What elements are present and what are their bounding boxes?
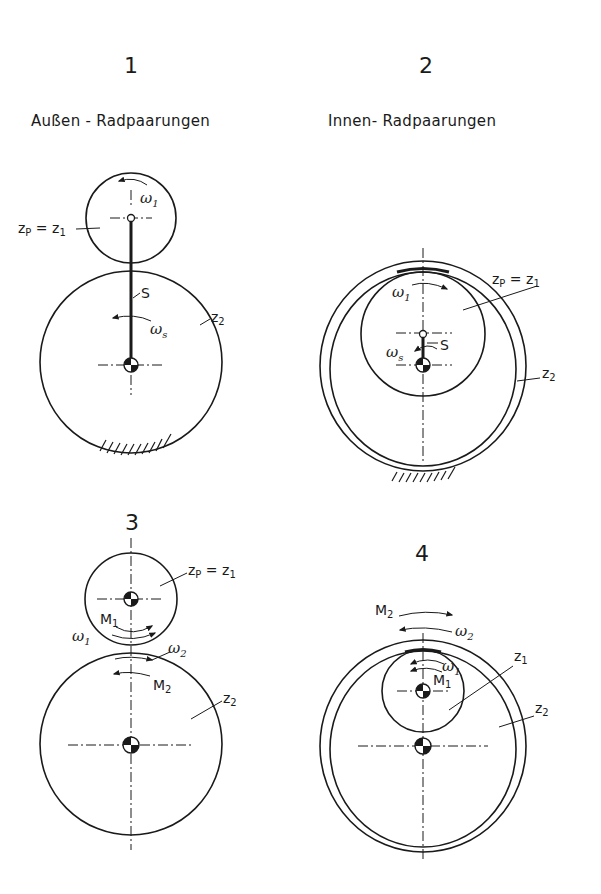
panel-2-internal-planetary: 2 Innen- Radpaarungen <box>320 53 556 482</box>
carrier-label-s: S <box>141 285 150 301</box>
omega2-rotation-arrow-icon <box>115 657 152 660</box>
planet-label: zP = z1 <box>18 220 66 238</box>
gear-pairing-diagram: 1 Außen - Radpaarungen <box>0 0 601 894</box>
panel-3-external-fixed-axes: 3 M1 ω1 ω2 M2 zP = z1 z2 <box>40 510 237 850</box>
omegas-rotation-arrow-icon <box>415 346 437 351</box>
omega2-label: ω2 <box>168 639 187 659</box>
leader-line <box>76 228 100 229</box>
omega1-rotation-arrow-icon <box>119 179 147 185</box>
panel-1-heading: Außen - Radpaarungen <box>31 112 210 130</box>
leader-line <box>517 378 540 381</box>
panel-4-number: 4 <box>415 541 429 566</box>
planet-pivot-icon <box>128 215 135 222</box>
omega1-rotation-arrow-icon <box>412 283 447 289</box>
ring-label: z2 <box>535 700 549 718</box>
planet-label: zP = z1 <box>188 562 236 580</box>
panel-2-number: 2 <box>419 53 433 78</box>
bearing-center-icon <box>124 592 138 606</box>
pinion-label: z1 <box>514 648 528 666</box>
fixed-ground-hatch <box>100 434 171 455</box>
m2-label: M2 <box>153 677 171 695</box>
leader-line <box>200 319 210 325</box>
gear-z2-label: z2 <box>223 690 237 708</box>
planet-label: zP = z1 <box>492 271 540 289</box>
sun-label: z2 <box>211 309 225 327</box>
panel-4-internal-fixed-axes: 4 M2 ω2 ω1 M1 z1 z <box>320 541 549 862</box>
omega2-label: ω2 <box>455 622 474 642</box>
planet-pivot-icon <box>420 331 427 338</box>
leader-line <box>499 716 534 727</box>
omega1-rotation-arrow-icon <box>112 633 155 639</box>
m2-label: M2 <box>375 602 393 620</box>
omega1-label: ω1 <box>140 189 159 209</box>
m2-torque-arrow-icon <box>399 612 452 616</box>
bearing-center-icon <box>416 684 430 698</box>
omega1-rotation-arrow-icon <box>411 660 444 664</box>
panel-2-heading: Innen- Radpaarungen <box>328 112 496 130</box>
m1-label: M1 <box>100 611 118 629</box>
ring-label: z2 <box>542 365 556 383</box>
panel-1-number: 1 <box>124 53 138 78</box>
bearing-center-icon <box>124 358 138 372</box>
omegas-label: ωs <box>386 343 403 363</box>
omegas-label: ωs <box>150 320 167 340</box>
m2-torque-arrow-icon <box>114 672 150 676</box>
m1-torque-arrow-icon <box>116 626 152 632</box>
leader-line <box>133 293 140 298</box>
panel-3-number: 3 <box>125 510 139 535</box>
bearing-center-icon <box>415 738 431 754</box>
panel-1-external-planetary: 1 Außen - Radpaarungen <box>18 53 225 455</box>
omega2-rotation-arrow-icon <box>400 628 452 632</box>
omega1-label: ω1 <box>72 627 91 647</box>
bearing-center-icon <box>416 358 430 372</box>
carrier-label-s: S <box>440 337 449 353</box>
leader-line <box>160 573 187 586</box>
omega1-label: ω1 <box>392 283 411 303</box>
bearing-center-icon <box>123 737 139 753</box>
